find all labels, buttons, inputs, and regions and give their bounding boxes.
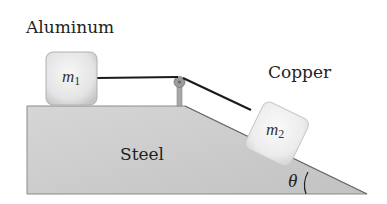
physics-diagram: Aluminum Copper Steel m1 m2 θ (0, 0, 387, 204)
label-m2: m2 (266, 120, 284, 142)
steel-incline (27, 106, 367, 194)
m1-subscript: 1 (74, 74, 80, 88)
m2-subscript: 2 (278, 127, 284, 141)
label-theta: θ (288, 170, 297, 192)
m2-symbol: m (266, 120, 278, 139)
label-m1: m1 (62, 67, 80, 89)
label-copper: Copper (268, 62, 331, 82)
m1-symbol: m (62, 67, 74, 86)
string-horizontal (97, 77, 178, 78)
label-steel: Steel (120, 144, 164, 164)
string-incline (183, 78, 251, 110)
pulley-axle (178, 80, 181, 83)
label-aluminum: Aluminum (26, 17, 114, 37)
